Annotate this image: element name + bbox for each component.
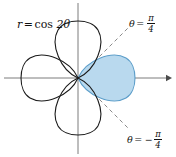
theta-positive-numerator: π (147, 14, 155, 23)
theta-negative-equals: = (134, 135, 142, 145)
theta-negative-label: θ=− π 4 (127, 130, 162, 149)
theta-negative-fraction: π 4 (154, 130, 162, 149)
theta-negative-denominator: 4 (154, 140, 161, 149)
shaded-petal-right (78, 55, 135, 101)
theta-positive-symbol: θ (129, 19, 135, 29)
theta-positive-label: θ= π 4 (129, 14, 155, 33)
x-axis-arrow-icon (166, 75, 172, 81)
equation-r: r (17, 18, 22, 31)
theta-negative-sign: − (145, 135, 153, 145)
equation-equals: = (24, 18, 33, 31)
theta-positive-equals: = (136, 19, 144, 29)
equation-label: r=cos 2θ (17, 19, 70, 30)
theta-positive-fraction: π 4 (147, 14, 155, 33)
theta-positive-denominator: 4 (147, 24, 154, 33)
theta-negative-numerator: π (154, 130, 162, 139)
polar-rose-figure: r=cos 2θ θ= π 4 θ=− π 4 (0, 0, 176, 157)
equation-function: cos (34, 18, 52, 31)
theta-negative-symbol: θ (127, 135, 133, 145)
equation-argument: 2θ (56, 18, 70, 31)
